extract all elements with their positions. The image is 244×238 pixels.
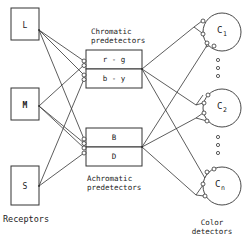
detector-C1: C 1 xyxy=(194,13,241,51)
D-label: D xyxy=(112,152,117,161)
svg-text:M: M xyxy=(23,101,28,110)
receptor-L: L xyxy=(11,8,39,40)
color-vision-diagram: L M S Receptors Chromatic predetectors r… xyxy=(0,0,244,238)
receptor-S: S xyxy=(11,166,39,205)
detector-connections xyxy=(141,27,206,195)
receptors-caption: Receptors xyxy=(3,214,49,224)
receptor-M: M xyxy=(11,88,39,120)
svg-text:predetectors: predetectors xyxy=(91,36,145,45)
svg-text:Chromatic: Chromatic xyxy=(91,27,132,36)
svg-text:Achromatic: Achromatic xyxy=(87,174,132,183)
vertical-dots-icon xyxy=(216,58,219,77)
chromatic-predetectors: Chromatic predetectors r - g b - y xyxy=(82,27,145,88)
svg-text:predetectors: predetectors xyxy=(87,183,141,192)
B-label: B xyxy=(112,133,117,142)
svg-text:L: L xyxy=(23,21,28,30)
svg-text:C: C xyxy=(215,179,220,189)
r-g-label: r - g xyxy=(103,55,126,64)
detectors-caption-1: Color xyxy=(201,218,224,227)
detector-C2: C 2 xyxy=(196,89,241,127)
svg-text:2: 2 xyxy=(223,106,227,114)
b-y-label: b - y xyxy=(103,74,126,83)
svg-text:n: n xyxy=(221,184,225,192)
vertical-dots-icon xyxy=(216,135,219,154)
svg-text:C: C xyxy=(217,25,222,35)
achromatic-predetectors: B D Achromatic predetectors xyxy=(82,128,142,192)
svg-text:S: S xyxy=(23,182,28,191)
receptor-connections xyxy=(38,29,84,187)
svg-text:C: C xyxy=(217,101,222,111)
detector-Cn: C n xyxy=(196,167,241,205)
svg-text:1: 1 xyxy=(223,30,227,38)
detectors-caption-2: detectors xyxy=(192,227,233,236)
